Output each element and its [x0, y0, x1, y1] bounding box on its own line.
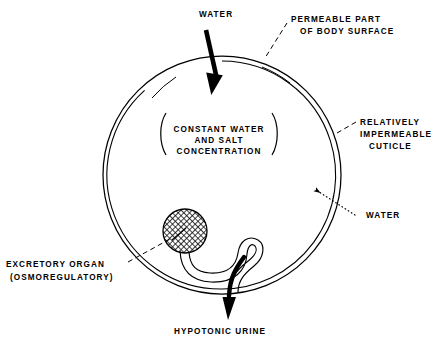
label-water-top: WATER	[199, 10, 233, 19]
body-wall-inner-circle	[107, 61, 336, 289]
body-wall-outer-circle	[103, 56, 341, 294]
body-wall-group	[103, 56, 341, 294]
interior-paren-right	[272, 113, 277, 155]
excretory-organ-leader	[128, 239, 170, 262]
label-interior-line3: CONCENTRATION	[177, 147, 262, 156]
cuticle-leader	[337, 122, 356, 133]
urine-efflux-arrow-shaft	[229, 257, 244, 296]
water-influx-top-arrow-head	[206, 73, 223, 96]
label-water-side: WATER	[366, 211, 400, 220]
label-cuticle-line2: IMPERMEABLE	[360, 130, 432, 139]
label-cuticle-line3: CUTICLE	[369, 142, 412, 151]
label-interior-line1: CONSTANT WATER	[174, 125, 265, 134]
label-cuticle-line1: RELATIVELY	[360, 118, 420, 127]
label-hypotonic-urine: HYPOTONIC URINE	[174, 327, 266, 336]
label-interior-line2: AND SALT	[194, 136, 243, 145]
label-permeable-part-line2: OF BODY SURFACE	[300, 27, 394, 36]
permeable-part-leader	[265, 23, 287, 58]
label-excretory-organ-line1: EXCRETORY ORGAN	[6, 260, 105, 269]
interior-paren-left	[161, 113, 166, 155]
water-influx-top-arrow-shaft	[206, 30, 217, 77]
urine-efflux-arrow-head	[223, 297, 237, 320]
water-influx-top-arrow	[206, 30, 223, 95]
permeable-gap-left-tick	[152, 77, 176, 98]
excretory-organ-body	[163, 209, 207, 253]
label-excretory-organ-line2: (OSMOREGULATORY)	[10, 273, 114, 282]
diagram-canvas: WATER PERMEABLE PART OF BODY SURFACE REL…	[0, 0, 445, 344]
excretory-organ	[163, 209, 207, 253]
label-permeable-part-line1: PERMEABLE PART	[291, 15, 381, 24]
osmoregulation-diagram: WATER PERMEABLE PART OF BODY SURFACE REL…	[0, 0, 445, 344]
